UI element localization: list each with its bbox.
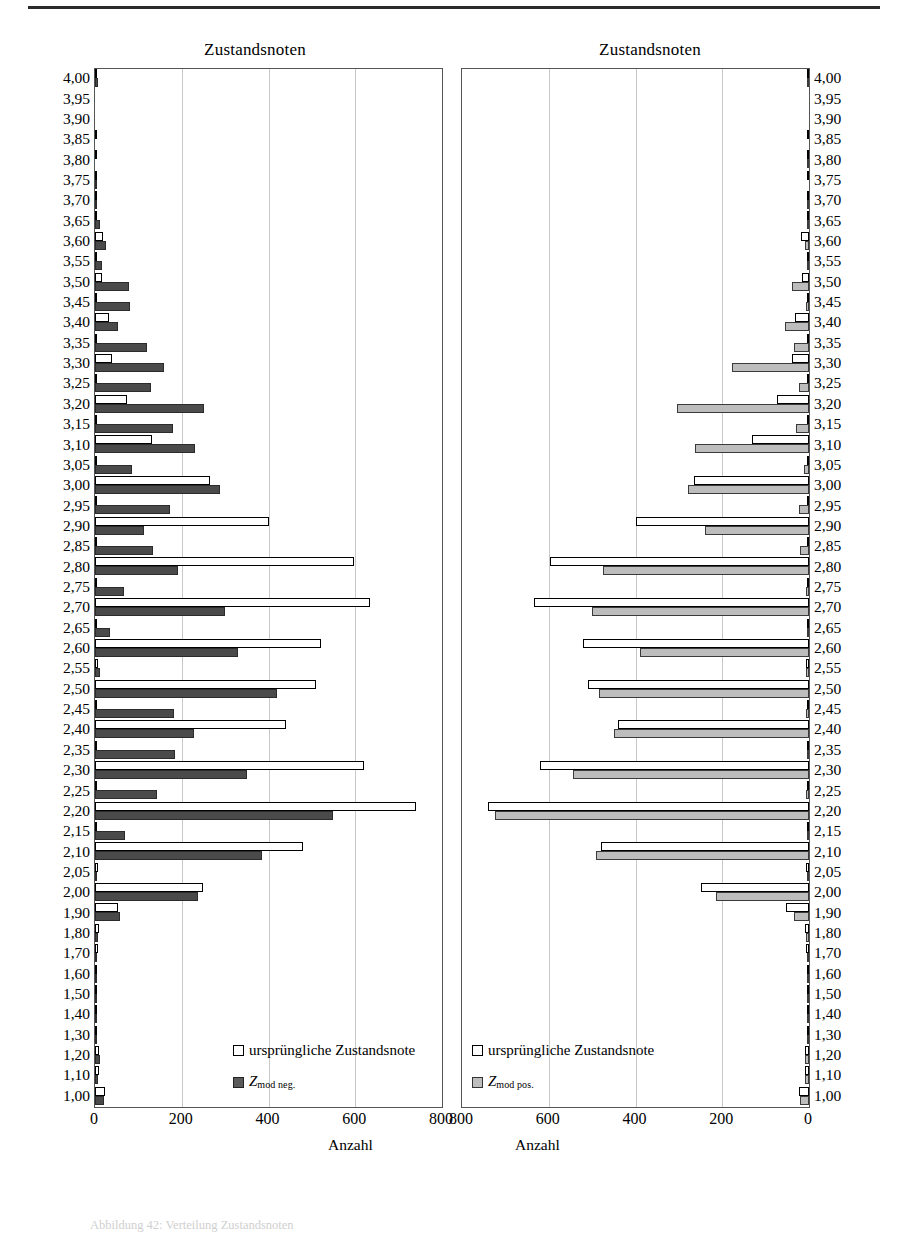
bar-row [95, 741, 442, 761]
bar-row [462, 456, 809, 476]
bar-modified [95, 220, 100, 229]
y-tick-label: 3,45 [32, 294, 90, 310]
bar-original [95, 1026, 97, 1035]
y-tick-label: 2,30 [32, 762, 90, 778]
bar-original [802, 273, 809, 282]
bar-row [95, 659, 442, 679]
bar-original [95, 659, 98, 668]
bar-modified [705, 526, 809, 535]
bar-modified [95, 892, 198, 901]
bar-modified [807, 974, 809, 983]
bar-original [540, 761, 809, 770]
bar-modified [95, 404, 204, 413]
bar-original [588, 680, 809, 689]
bar-row [462, 557, 809, 577]
bar-modified [599, 689, 809, 698]
y-tick-label: 1,70 [32, 945, 90, 961]
bar-modified [95, 974, 97, 983]
bar-original [95, 171, 97, 180]
y-tick-label: 2,85 [32, 538, 90, 554]
bar-modified [807, 1014, 809, 1023]
bar-row [95, 883, 442, 903]
y-tick-label: 3,95 [32, 91, 90, 107]
bar-row [95, 496, 442, 516]
bar-modified [807, 220, 809, 229]
bar-modified [95, 485, 220, 494]
bar-original [95, 273, 102, 282]
bar-modified [592, 607, 809, 616]
bar-original [795, 313, 809, 322]
bar-modified [677, 404, 809, 413]
bar-row [462, 903, 809, 923]
bar-row [462, 435, 809, 455]
bar-original [95, 578, 97, 587]
bar-original [95, 1066, 99, 1075]
bar-row [95, 578, 442, 598]
bar-modified [806, 933, 809, 942]
bar-original [792, 354, 809, 363]
bar-row [462, 680, 809, 700]
bar-modified [95, 465, 132, 474]
bar-original [95, 944, 98, 953]
bar-original [805, 1046, 809, 1055]
bar-original [95, 965, 97, 974]
bar-row [462, 415, 809, 435]
y-tick-label: 2,60 [814, 640, 872, 656]
x-axis-ticks-left: 0200400600800 [94, 1110, 441, 1134]
bar-row [95, 598, 442, 618]
bar-row [462, 822, 809, 842]
bar-modified [95, 200, 97, 209]
bar-modified [95, 1035, 97, 1044]
bar-row [95, 842, 442, 862]
y-tick-label: 2,25 [814, 783, 872, 799]
bar-modified [95, 1055, 100, 1064]
bar-original [805, 1066, 809, 1075]
bar-modified [95, 546, 153, 555]
bar-modified [716, 892, 809, 901]
bar-original [807, 334, 809, 343]
y-tick-label: 3,75 [32, 172, 90, 188]
y-tick-label: 3,00 [32, 477, 90, 493]
bar-original [95, 211, 97, 220]
y-tick-label: 1,90 [814, 905, 872, 921]
bar-modified [800, 1096, 809, 1105]
bar-original [807, 293, 809, 302]
bar-modified [807, 994, 809, 1003]
bar-row [95, 903, 442, 923]
x-tick-label: 400 [623, 1110, 647, 1128]
bar-original [95, 476, 210, 485]
bar-row [462, 619, 809, 639]
y-tick-label: 3,00 [814, 477, 872, 493]
y-tick-label: 2,00 [32, 884, 90, 900]
bar-original [95, 395, 127, 404]
bar-row [95, 374, 442, 394]
top-rule [28, 6, 880, 9]
bar-original [95, 191, 97, 200]
legend-left: ursprüngliche ZustandsnoteZmod neg. [233, 1043, 415, 1106]
y-tick-label: 3,05 [32, 457, 90, 473]
bar-modified [805, 1055, 809, 1064]
bar-row [462, 944, 809, 964]
y-tick-label: 1,90 [32, 905, 90, 921]
y-tick-label: 3,65 [32, 213, 90, 229]
bar-row [95, 1005, 442, 1025]
bar-modified [573, 770, 809, 779]
y-tick-label: 3,90 [32, 111, 90, 127]
y-tick-label: 2,50 [32, 681, 90, 697]
bar-original [95, 252, 97, 261]
bar-original [807, 130, 809, 139]
bar-original [636, 517, 810, 526]
bar-modified [806, 668, 809, 677]
bar-modified [807, 159, 809, 168]
bar-row [95, 476, 442, 496]
bar-original [807, 578, 809, 587]
bar-modified [95, 709, 174, 718]
y-tick-label: 3,15 [814, 416, 872, 432]
legend-right: ursprüngliche ZustandsnoteZmod pos. [472, 1043, 654, 1106]
x-axis-ticks-right: 8006004002000 [461, 1110, 808, 1134]
y-tick-label: 3,50 [32, 274, 90, 290]
y-tick-label: 3,55 [814, 253, 872, 269]
y-tick-label: 3,20 [814, 396, 872, 412]
bar-row [95, 944, 442, 964]
